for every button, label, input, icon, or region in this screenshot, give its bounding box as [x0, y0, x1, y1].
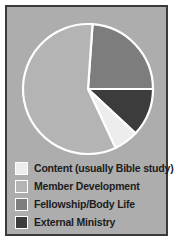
legend-item-external-ministry: External Ministry — [15, 214, 165, 231]
legend-swatch-fellowship-body-life — [15, 198, 28, 211]
pie-chart-figure: Content (usually Bible study) Member Dev… — [0, 0, 173, 241]
legend-swatch-external-ministry — [15, 216, 28, 229]
legend-swatch-content — [15, 162, 28, 175]
legend-label-fellowship-body-life: Fellowship/Body Life — [34, 199, 135, 210]
legend-item-member-development: Member Development — [15, 178, 165, 195]
legend-item-fellowship-body-life: Fellowship/Body Life — [15, 196, 165, 213]
pie-slice-fellowship-body-life — [88, 24, 153, 89]
chart-legend: Content (usually Bible study) Member Dev… — [15, 160, 165, 232]
pie-wedges — [23, 24, 153, 154]
legend-item-content: Content (usually Bible study) — [15, 160, 165, 177]
legend-label-external-ministry: External Ministry — [34, 217, 115, 228]
chart-frame: Content (usually Bible study) Member Dev… — [5, 5, 168, 236]
legend-label-member-development: Member Development — [34, 181, 140, 192]
legend-label-content: Content (usually Bible study) — [34, 163, 173, 174]
legend-swatch-member-development — [15, 180, 28, 193]
